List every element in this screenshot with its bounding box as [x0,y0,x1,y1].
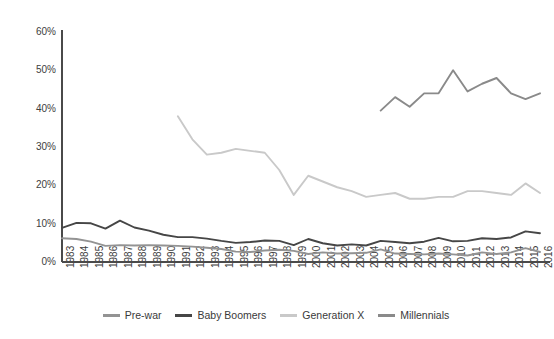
legend-label: Pre-war [125,310,162,321]
series-line-generation-x [178,116,540,198]
legend-item-generation-x[interactable]: Generation X [280,310,364,321]
legend-label: Generation X [302,310,364,321]
series-line-millennials [381,70,540,110]
legend-item-baby-boomers[interactable]: Baby Boomers [175,310,266,321]
legend-label: Baby Boomers [197,310,266,321]
legend-swatch-icon [103,314,120,317]
series-line-baby-boomers [62,221,540,246]
legend-swatch-icon [175,314,192,317]
legend-item-pre-war[interactable]: Pre-war [103,310,162,321]
legend-label: Millennials [400,310,449,321]
legend-swatch-icon [280,314,297,317]
legend-swatch-icon [378,314,395,317]
chart-legend: Pre-warBaby BoomersGeneration XMillennia… [0,310,552,321]
legend-item-millennials[interactable]: Millennials [378,310,449,321]
